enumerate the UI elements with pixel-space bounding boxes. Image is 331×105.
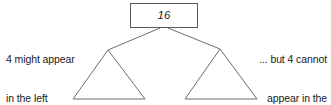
- left-annotation-line-1: 4 might appear: [6, 53, 75, 66]
- edge-root-to-left-subtree: [108, 28, 160, 50]
- right-annotation-line-2: appear in the: [259, 92, 327, 105]
- right-annotation-line-1: ... but 4 cannot: [259, 53, 327, 66]
- bst-diagram: 16 4 might appear in the left subtree ..…: [0, 0, 331, 105]
- edge-root-to-right-subtree: [168, 28, 220, 49]
- right-annotation: ... but 4 cannot appear in the right sub…: [259, 27, 327, 105]
- left-annotation: 4 might appear in the left subtree ...: [6, 27, 75, 105]
- root-node-value: 16: [158, 9, 171, 21]
- right-subtree-triangle: [185, 49, 257, 99]
- left-annotation-line-2: in the left: [6, 92, 75, 105]
- left-subtree-triangle: [73, 50, 145, 99]
